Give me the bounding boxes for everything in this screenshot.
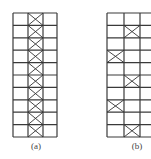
bracing-diagram [0,0,151,159]
frame-a-continuous-bracing [13,13,57,137]
panel-a-label: (a) [26,141,46,151]
frame-b-staggered-bracing [107,13,151,137]
panel-b-label: (b) [127,141,147,151]
